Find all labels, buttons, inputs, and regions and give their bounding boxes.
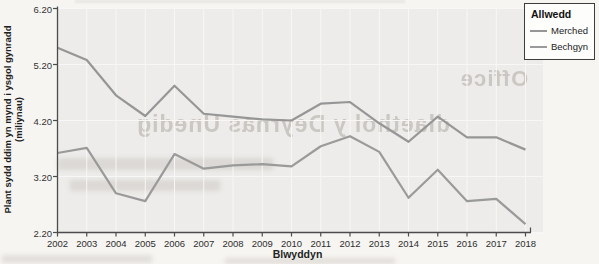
cropped-title-remnant — [75, 0, 405, 3]
x-tick-label: 2010 — [277, 238, 307, 249]
x-tick-label: 2002 — [43, 238, 73, 249]
legend-label-merched: Merched — [551, 25, 588, 36]
x-tick-label: 2009 — [247, 238, 277, 249]
x-axis-label: Blwyddyn — [230, 248, 365, 260]
x-tick-label: 2008 — [218, 238, 248, 249]
x-tick-label: 2006 — [160, 238, 190, 249]
legend: Allwedd Merched Bechgyn — [524, 3, 595, 60]
x-tick-label: 2015 — [423, 238, 453, 249]
x-tick-label: 2011 — [306, 238, 336, 249]
ghost-blur-bar — [70, 180, 220, 191]
ghost-text-office: Office — [438, 66, 550, 92]
x-tick-label: 2016 — [452, 238, 482, 249]
y-tick-label: 4.20 — [0, 116, 52, 127]
y-tick-label: 2.20 — [0, 228, 52, 239]
x-tick-label: 2004 — [101, 238, 131, 249]
ghost-blur-bar — [2, 255, 152, 263]
legend-title: Allwedd — [525, 4, 594, 20]
x-tick-label: 2005 — [130, 238, 160, 249]
bechgyn-line-swatch — [530, 46, 547, 48]
x-tick-label: 2012 — [335, 238, 365, 249]
x-tick-label: 2018 — [511, 238, 541, 249]
x-tick-label: 2003 — [72, 238, 102, 249]
legend-label-bechgyn: Bechgyn — [551, 41, 588, 52]
x-tick-label: 2017 — [481, 238, 511, 249]
legend-item-bechgyn: Bechgyn — [530, 41, 594, 52]
scanned-chart-page: Office dlaethol y Deyrnas Unedig Plant s… — [0, 0, 599, 264]
ghost-text-headline: dlaethol y Deyrnas Unedig — [58, 111, 528, 138]
merched-line-swatch — [530, 30, 547, 32]
x-tick-label: 2013 — [364, 238, 394, 249]
x-tick-label: 2007 — [189, 238, 219, 249]
legend-item-merched: Merched — [530, 25, 594, 36]
y-tick-label: 5.20 — [0, 60, 52, 71]
y-tick-label: 6.20 — [0, 4, 52, 15]
y-tick-label: 3.20 — [0, 172, 52, 183]
ghost-blur-bar — [58, 158, 273, 170]
x-tick-label: 2014 — [394, 238, 424, 249]
